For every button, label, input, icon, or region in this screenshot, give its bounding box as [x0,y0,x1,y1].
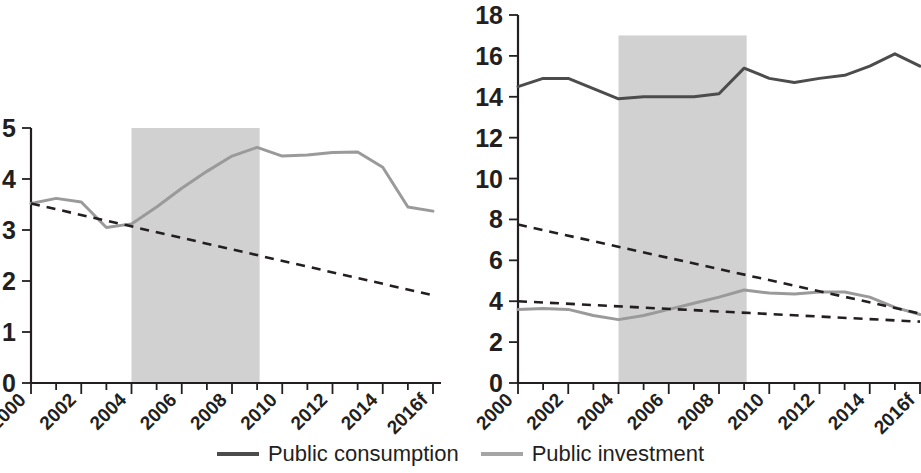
figure-two-panel-chart: 0123452000200220042006200820102012201420… [0,0,921,473]
y-axis-tick-label: 10 [475,165,503,193]
chart-panel-right: 0246810121416182000200220042006200820102… [460,0,921,473]
x-axis-tick-label-group: 2014 [824,389,869,434]
x-axis-tick-label-group: 2002 [522,389,567,434]
legend-line-swatch-icon [481,452,523,456]
chart-panel-left: 0123452000200220042006200820102012201420… [0,0,460,473]
left-chart-svg: 0123452000200220042006200820102012201420… [0,0,460,440]
shaded-period-band [619,35,747,383]
x-axis-tick-label-group: 2008 [186,389,231,434]
x-axis-tick-label-group: 2006 [136,389,181,434]
x-axis-tick-label-group: 2000 [472,389,517,434]
x-axis-tick-label-group: 2014 [337,389,382,434]
chart-legend: Public consumption Public investment [0,437,921,471]
x-axis-tick-label: 2000 [472,389,517,434]
x-axis-tick-label: 2008 [673,389,718,434]
x-axis-tick-label: 2014 [824,389,869,434]
legend-label-public-consumption: Public consumption [268,443,459,465]
x-axis-tick-label-group: 2012 [774,389,819,434]
x-axis-tick-label: 2006 [623,389,668,434]
y-axis-tick-label: 5 [2,114,16,142]
x-axis-tick-label-group: 2008 [673,389,718,434]
x-axis-tick-label: 2010 [236,389,281,434]
y-axis-tick-label: 1 [2,318,16,346]
legend-item-public-investment: Public investment [481,443,704,465]
x-axis-tick-label: 2002 [35,389,80,434]
y-axis-tick-label: 2 [489,328,503,356]
x-axis-tick-label: 2002 [522,389,567,434]
x-axis-tick-label: 2012 [287,389,332,434]
y-axis-tick-label: 12 [475,124,503,152]
shaded-period-band [132,128,260,383]
y-axis-tick-label: 16 [475,42,503,70]
x-axis-tick-label: 2004 [86,389,131,434]
y-axis-tick-label: 4 [2,165,16,193]
x-axis-tick-label: 2014 [337,389,382,434]
x-axis-tick-label-group: 2010 [236,389,281,434]
x-axis-tick-label: 2012 [774,389,819,434]
x-axis-tick-label-group: 2012 [287,389,332,434]
x-axis-tick-label-group: 2010 [723,389,768,434]
legend-line-swatch-icon [217,452,259,456]
y-axis-tick-label: 2 [2,267,16,295]
legend-label-public-investment: Public investment [532,443,704,465]
x-axis-tick-label-group: 2016f [870,389,920,439]
y-axis-tick-label: 4 [489,287,503,315]
x-axis-tick-label-group: 2016f [383,389,433,439]
y-axis-tick-label: 3 [2,216,16,244]
x-axis-tick-label-group: 2004 [573,389,618,434]
right-chart-svg: 0246810121416182000200220042006200820102… [460,0,921,440]
legend-item-public-consumption: Public consumption [217,443,459,465]
y-axis-tick-label: 6 [489,246,503,274]
x-axis-tick-label: 2016f [870,389,920,439]
y-axis-tick-label: 18 [475,1,503,29]
x-axis-tick-label-group: 2004 [86,389,131,434]
x-axis-tick-label: 2016f [383,389,433,439]
x-axis-tick-label: 2010 [723,389,768,434]
x-axis-tick-label-group: 2006 [623,389,668,434]
x-axis-tick-label-group: 2002 [35,389,80,434]
y-axis-tick-label: 8 [489,205,503,233]
x-axis-tick-label: 2004 [573,389,618,434]
y-axis-tick-label: 14 [475,83,503,111]
x-axis-tick-label: 2006 [136,389,181,434]
x-axis-tick-label: 2008 [186,389,231,434]
